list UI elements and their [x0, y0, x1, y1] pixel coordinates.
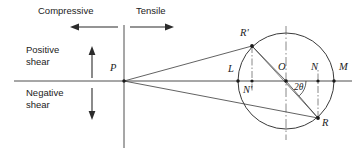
label-positive-shear-line2: shear — [26, 57, 50, 68]
point-label-O: O — [278, 61, 286, 73]
point-dot-N — [316, 79, 319, 82]
mohrs-circle-figure: Compressive Tensile Positive shear Negat… — [0, 0, 360, 163]
label-negative-shear-line1: Negative — [26, 88, 64, 99]
label-positive-shear-line1: Positive — [26, 45, 59, 56]
point-dot-N-prime — [250, 79, 253, 82]
point-dot-O — [284, 79, 288, 83]
point-dot-P — [122, 79, 125, 82]
point-label-P: P — [110, 62, 116, 74]
point-label-N-prime: N' — [243, 84, 252, 96]
positive-shear-arrow — [89, 46, 96, 78]
label-tensile: Tensile — [136, 6, 166, 17]
compressive-arrow — [70, 24, 118, 31]
point-markers — [122, 44, 335, 120]
negative-shear-arrow — [89, 88, 96, 120]
figure-canvas — [0, 0, 360, 163]
label-negative-shear-line2: shear — [26, 100, 50, 111]
point-dot-M — [332, 79, 335, 82]
point-label-R-prime: R' — [240, 27, 249, 39]
point-label-M: M — [339, 61, 348, 73]
angle-label-2theta: 2θ — [294, 82, 303, 93]
point-label-R: R — [322, 117, 328, 129]
point-label-N: N — [311, 61, 318, 73]
tensile-arrow — [130, 24, 174, 31]
point-label-L: L — [228, 63, 234, 75]
point-dot-R-prime — [250, 44, 254, 48]
point-dot-R — [316, 116, 320, 120]
label-compressive: Compressive — [38, 6, 93, 17]
point-dot-L — [236, 79, 239, 82]
